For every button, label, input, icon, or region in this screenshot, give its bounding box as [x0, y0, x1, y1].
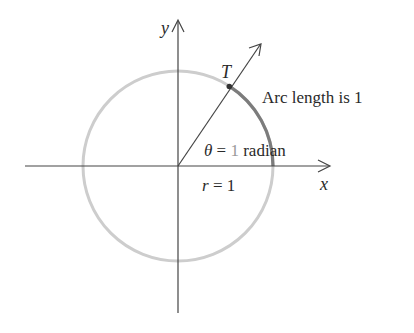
diagram-canvas: y x T Arc length is 1 θ = 1 radian r = 1: [0, 0, 414, 333]
x-axis-label: x: [319, 174, 328, 194]
theta-symbol: θ: [204, 141, 212, 160]
theta-unit: radian: [239, 141, 286, 160]
radius-label: r = 1: [202, 176, 235, 195]
theta-equals: =: [212, 141, 230, 160]
point-t-marker: [227, 84, 233, 90]
point-t-label: T: [221, 62, 233, 82]
radius-value: = 1: [209, 176, 236, 195]
theta-value: 1: [230, 141, 239, 160]
unit-circle-diagram: y x T Arc length is 1 θ = 1 radian r = 1: [0, 0, 414, 333]
theta-label: θ = 1 radian: [204, 141, 286, 160]
y-axis-label: y: [159, 18, 169, 38]
arc-length-label: Arc length is 1: [262, 88, 363, 107]
